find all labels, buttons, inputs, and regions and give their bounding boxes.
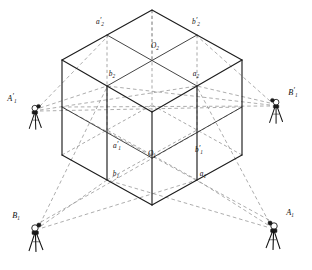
label-a2-prime-sub: 2 bbox=[101, 21, 104, 27]
label-a1-prime: a′1 bbox=[113, 140, 121, 151]
tripod-leg-left bbox=[29, 114, 34, 129]
tripod-leg-right bbox=[36, 114, 41, 128]
label-station-B1-sub: 1 bbox=[17, 215, 20, 221]
theodolite-scope-body bbox=[268, 221, 272, 225]
sight-ray-b1p-1 bbox=[197, 86, 270, 103]
tripod-leg-right bbox=[277, 108, 282, 122]
sight-ray-group bbox=[40, 36, 270, 228]
tripod-leg-left bbox=[29, 234, 34, 250]
point-label-group: a′2 b′2 O2 b2 a2 a′1 O1 b′1 bbox=[96, 16, 207, 180]
label-b2-sub: 2 bbox=[113, 73, 116, 79]
label-station-B1: B1 bbox=[12, 211, 20, 221]
label-a2: a2 bbox=[193, 69, 200, 79]
label-O2-sub: 2 bbox=[156, 45, 159, 51]
label-b1: b1 bbox=[113, 169, 120, 179]
label-b2-prime-sub: 2 bbox=[197, 21, 200, 27]
theodolite-scope-body bbox=[37, 104, 41, 108]
tripod-leg-left bbox=[270, 108, 275, 123]
label-O1-sub: 1 bbox=[153, 153, 156, 159]
label-b1-prime-sub: 1 bbox=[200, 149, 203, 155]
theodolite-b1-prime[interactable] bbox=[270, 98, 283, 123]
sight-ray-a1p-4 bbox=[40, 107, 242, 111]
label-a2-prime: a′2 bbox=[96, 16, 104, 27]
theodolite-b1[interactable] bbox=[29, 223, 43, 252]
label-station-B1-prime-sub: 1 bbox=[295, 92, 298, 98]
label-b1-sub: 1 bbox=[117, 173, 120, 179]
theodolite-scope-body bbox=[270, 98, 274, 102]
theodolite-a1[interactable] bbox=[266, 221, 280, 250]
sight-ray-b1p-3 bbox=[107, 86, 270, 105]
label-a1-sub: 1 bbox=[204, 173, 207, 179]
diagram-canvas: a′2 b′2 O2 b2 a2 a′1 O1 b′1 bbox=[0, 0, 312, 270]
label-station-A1: A1 bbox=[285, 208, 294, 218]
label-station-A1-sub: 1 bbox=[291, 212, 294, 218]
sight-ray-b1p-2 bbox=[197, 36, 270, 101]
label-b1-prime: b′1 bbox=[195, 144, 203, 155]
label-station-A1-prime: A′1 bbox=[6, 92, 17, 104]
survey-diagram: a′2 b′2 O2 b2 a2 a′1 O1 b′1 bbox=[0, 0, 312, 270]
sight-ray-a1-2 bbox=[197, 180, 268, 225]
label-a1-prime-sub: 1 bbox=[118, 145, 121, 151]
label-b2-prime: b′2 bbox=[192, 16, 200, 27]
label-station-B1-prime: B′1 bbox=[288, 86, 298, 98]
label-O2: O2 bbox=[151, 41, 159, 51]
sight-ray-b1-2 bbox=[41, 180, 107, 226]
label-b2: b2 bbox=[109, 69, 116, 79]
label-a2-sub: 2 bbox=[197, 73, 200, 79]
theodolite-scope-body bbox=[37, 223, 41, 227]
sight-ray-a1-3 bbox=[107, 180, 267, 227]
sight-ray-a1p-2 bbox=[40, 36, 108, 106]
label-O1: O1 bbox=[148, 149, 156, 159]
theodolite-a1-prime[interactable] bbox=[29, 104, 41, 129]
tripod-leg-right bbox=[275, 232, 280, 248]
label-a1: a1 bbox=[200, 169, 207, 179]
label-station-A1-prime-sub: 1 bbox=[14, 98, 17, 104]
